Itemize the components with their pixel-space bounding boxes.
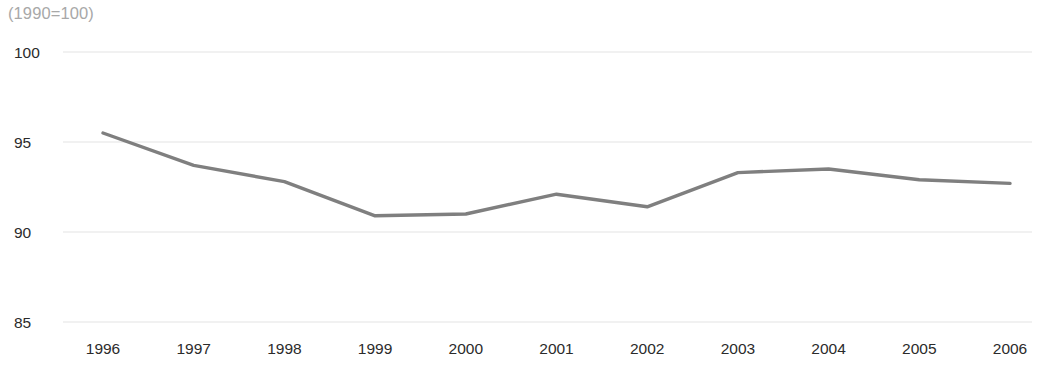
x-axis-tick-label-2003: 2003 xyxy=(721,340,755,358)
x-axis-tick-label-1998: 1998 xyxy=(267,340,301,358)
x-axis-tick-label-2006: 2006 xyxy=(993,340,1027,358)
chart-plot-area xyxy=(0,0,1044,379)
x-axis-tick-label-2004: 2004 xyxy=(811,340,845,358)
x-axis-tick-label-2001: 2001 xyxy=(539,340,573,358)
gridlines xyxy=(63,52,1032,322)
x-axis-tick-label-2005: 2005 xyxy=(902,340,936,358)
x-axis-tick-label-2000: 2000 xyxy=(449,340,483,358)
data-series-line xyxy=(103,133,1010,216)
x-axis-tick-label-1999: 1999 xyxy=(358,340,392,358)
chart-container: (1990=100) 100 95 90 85 1996 1997 1998 1… xyxy=(0,0,1044,379)
x-axis-tick-label-1996: 1996 xyxy=(86,340,120,358)
x-axis-tick-label-2002: 2002 xyxy=(630,340,664,358)
x-axis-tick-label-1997: 1997 xyxy=(176,340,210,358)
